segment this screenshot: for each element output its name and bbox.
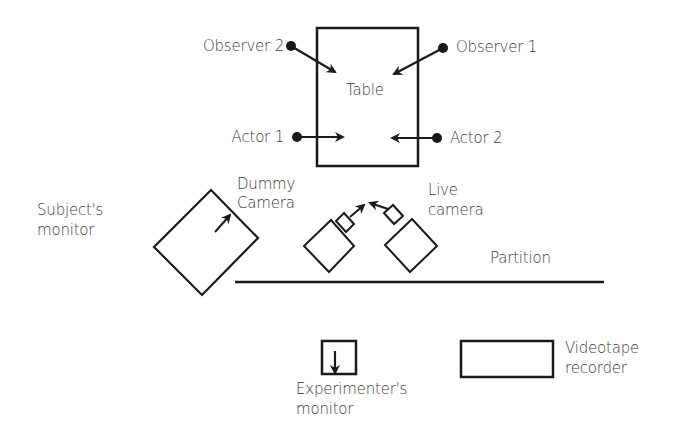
experimenters-monitor-shape [322,341,356,374]
experimenters-monitor-label-line2: monitor [296,399,353,419]
dummy-camera-label-line2: Camera [237,193,295,213]
observer1-label: Observer 1 [456,37,537,57]
live-camera-shape [370,203,437,272]
videotape-recorder-shape [461,341,553,377]
videotape-recorder-label-line1: Videotape [565,338,639,358]
subjects-monitor-label-line1: Subject's [37,200,103,220]
actor1-label: Actor 1 [210,127,284,147]
live-camera-label-line1: Live [428,180,458,200]
partition-label: Partition [490,248,551,268]
actor2-label: Actor 2 [450,128,502,148]
observer2-marker [286,41,335,72]
table-label: Table [346,80,384,100]
observer1-marker [394,43,448,74]
observer2-label: Observer 2 [183,36,284,56]
dummy-camera-label-line1: Dummy [237,174,295,194]
dummy-camera-shape [304,205,364,272]
subjects-monitor-label-line2: monitor [37,220,94,240]
videotape-recorder-label-line2: recorder [565,358,627,378]
experimenters-monitor-label-line1: Experimenter's [296,379,407,399]
diagram-canvas: Table Observer 2 Observer 1 Actor 1 Acto… [0,0,678,432]
live-camera-label-line2: camera [428,200,483,220]
